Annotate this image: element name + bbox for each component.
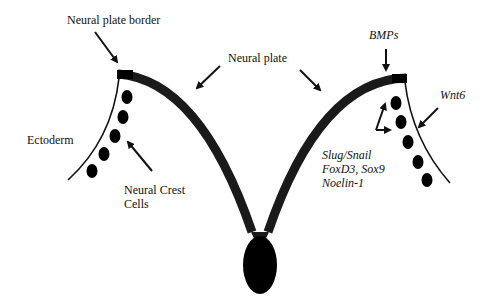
arrow-neural-plate-right	[300, 70, 320, 90]
label-marker-slug-snail: Slug/Snail	[322, 148, 371, 162]
right-plate-border-cap	[392, 74, 407, 83]
arrow-neural-plate-left	[197, 66, 220, 88]
left-plate-border-cap	[117, 70, 133, 79]
label-marker-noelin1: Noelin-1	[322, 176, 364, 190]
label-neural-plate: Neural plate	[228, 51, 287, 65]
label-neural-crest-line1: Neural Crest	[124, 183, 185, 197]
arrow-neural-plate-border	[95, 32, 117, 62]
right-neural-crest-cells	[391, 96, 433, 187]
label-ectoderm: Ectoderm	[27, 133, 74, 147]
arrow-wnt6	[419, 108, 438, 127]
notochord-ellipse	[243, 236, 277, 294]
label-bmps: BMPs	[369, 28, 398, 42]
neural-crest-diagram	[0, 0, 489, 296]
left-neural-crest-cells	[87, 90, 133, 178]
arrow-markers-to-cells	[376, 104, 385, 130]
label-neural-crest-line2: Cells	[124, 197, 149, 211]
label-neural-plate-border: Neural plate border	[67, 13, 160, 27]
label-wnt6: Wnt6	[440, 88, 465, 102]
arrow-neural-crest-cells	[128, 142, 152, 171]
label-marker-foxd3-sox9: FoxD3, Sox9	[322, 162, 385, 176]
